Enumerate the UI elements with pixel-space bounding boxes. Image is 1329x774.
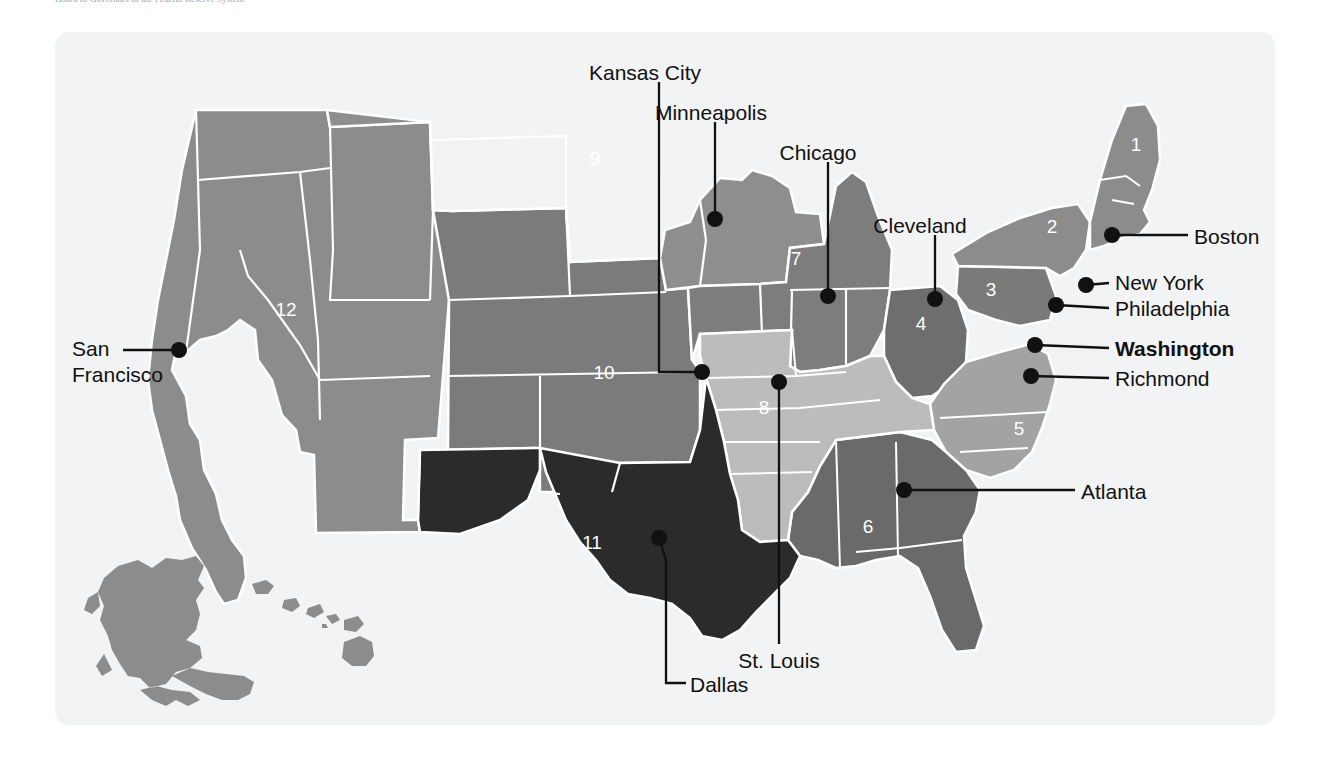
district-number-4: 4: [916, 313, 927, 334]
city-marker-atlanta[interactable]: [896, 482, 912, 498]
city-label-minneapolis: Minneapolis: [655, 100, 767, 125]
city-label-dallas: Dallas: [690, 672, 748, 697]
city-marker-dallas[interactable]: [651, 530, 667, 546]
city-marker-philadelphia[interactable]: [1048, 297, 1064, 313]
district-number-8: 8: [759, 397, 770, 418]
district-number-2: 2: [1047, 216, 1058, 237]
map-stage: 123456789101112 Kansas CityMinneapolisCh…: [0, 0, 1329, 774]
district-region-2: [952, 204, 1090, 276]
district-number-1: 1: [1131, 134, 1142, 155]
map-regions-layer: [84, 104, 1160, 706]
district-number-5: 5: [1014, 418, 1025, 439]
figure-root: Board of Governors of the Federal Reserv…: [0, 0, 1329, 774]
city-label-chicago: Chicago: [779, 140, 856, 165]
city-marker-chicago[interactable]: [820, 288, 836, 304]
district-number-12: 12: [275, 299, 296, 320]
city-label-atlanta: Atlanta: [1081, 479, 1146, 504]
district-number-10: 10: [593, 362, 614, 383]
city-marker-new-york[interactable]: [1078, 277, 1094, 293]
city-marker-cleveland[interactable]: [927, 291, 943, 307]
leader-line-washington: [1035, 345, 1109, 348]
city-marker-boston[interactable]: [1104, 227, 1120, 243]
district-region-12: [148, 110, 452, 604]
city-label-kansas-city: Kansas City: [589, 60, 701, 85]
district-number-9: 9: [590, 148, 601, 169]
city-marker-washington[interactable]: [1027, 337, 1043, 353]
district-number-11: 11: [582, 532, 602, 553]
city-label-san-francisco: San Francisco: [72, 336, 163, 388]
district-region-3: [956, 266, 1056, 326]
city-label-new-york: New York: [1115, 270, 1204, 295]
city-marker-minneapolis[interactable]: [707, 211, 723, 227]
city-marker-kansas-city[interactable]: [694, 364, 710, 380]
city-label-richmond: Richmond: [1115, 366, 1210, 391]
district-number-3: 3: [986, 279, 997, 300]
city-marker-richmond[interactable]: [1023, 368, 1039, 384]
city-label-boston: Boston: [1194, 224, 1259, 249]
city-label-philadelphia: Philadelphia: [1115, 296, 1229, 321]
city-marker-san-francisco[interactable]: [171, 342, 187, 358]
city-label-cleveland: Cleveland: [873, 213, 966, 238]
city-label-st-louis: St. Louis: [738, 648, 820, 673]
district-number-6: 6: [863, 516, 874, 537]
city-label-washington: Washington: [1115, 336, 1234, 361]
district-number-7: 7: [791, 248, 802, 269]
city-marker-st-louis[interactable]: [771, 374, 787, 390]
hawaii-inset: [252, 580, 374, 666]
